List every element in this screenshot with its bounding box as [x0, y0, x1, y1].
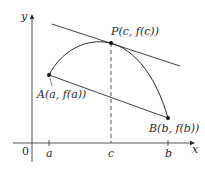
- point-label-p: P(c, f(c)): [110, 25, 159, 38]
- tick-label-c: c: [108, 147, 114, 160]
- point-b: [166, 116, 170, 120]
- tick-label-b: b: [165, 147, 172, 160]
- point-label-a: A(a, f(a)): [36, 88, 86, 101]
- curve-f: [49, 42, 168, 118]
- point-p: [109, 41, 113, 45]
- tick-label-a: a: [46, 147, 53, 160]
- origin-label: 0: [22, 145, 29, 158]
- point-label-b: B(b, f(b)): [148, 122, 199, 135]
- pointer-a: [50, 78, 52, 86]
- x-axis-label: x: [192, 143, 199, 156]
- y-axis-label: y: [20, 10, 28, 23]
- mvt-diagram: y x 0 a c b P(c, f(c)) A(a, f(a)) B(b, f…: [0, 0, 205, 170]
- point-a: [47, 73, 51, 77]
